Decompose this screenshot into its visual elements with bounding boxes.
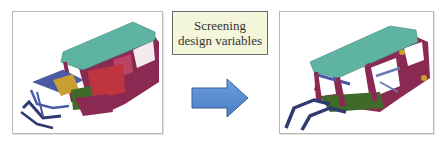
right-arrow-icon <box>191 78 249 118</box>
full-car-body-panel <box>12 11 163 134</box>
car-body-full-image <box>13 12 162 133</box>
screening-design-variables-label: Screening design variables <box>172 11 268 55</box>
car-body-screened-image <box>280 12 433 133</box>
label-line-2: design variables <box>178 33 262 48</box>
label-line-1: Screening <box>194 18 246 33</box>
screened-car-body-panel <box>279 11 434 134</box>
